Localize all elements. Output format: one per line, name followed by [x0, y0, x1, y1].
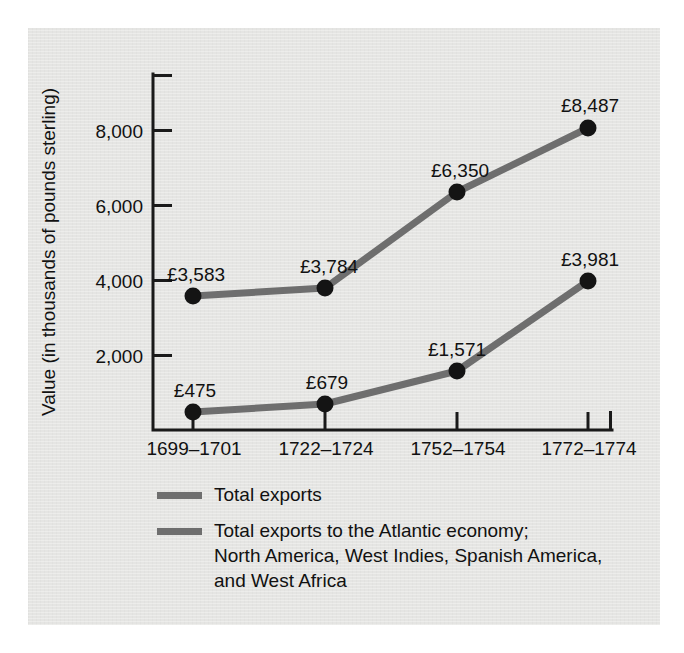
- x-tick-label-3: 1772–1774: [541, 438, 637, 459]
- y-tick-label-8000: 8,000: [95, 121, 143, 142]
- data-point-atlantic-economy-1: [317, 396, 334, 413]
- data-point-atlantic-economy-3: [580, 273, 597, 290]
- legend-label-total-exports: Total exports: [214, 484, 322, 505]
- data-point-atlantic-economy-0: [185, 404, 202, 421]
- y-tick-label-4000: 4,000: [95, 271, 143, 292]
- y-tick-label-2000: 2,000: [95, 346, 143, 367]
- data-point-total-exports-2: [449, 184, 466, 201]
- data-label-total-exports-3: £8,487: [561, 95, 619, 116]
- series-line-total-exports: [193, 128, 588, 296]
- legend-label-atlantic-economy-line2: North America, West Indies, Spanish Amer…: [214, 545, 602, 566]
- data-label-atlantic-economy-0: £475: [174, 380, 216, 401]
- data-point-total-exports-3: [580, 120, 597, 137]
- data-label-total-exports-1: £3,784: [300, 256, 359, 277]
- x-tick-label-0: 1699–1701: [146, 438, 241, 459]
- y-tick-label-6000: 6,000: [95, 196, 143, 217]
- data-point-total-exports-0: [185, 288, 202, 305]
- legend-swatch-atlantic-economy: [157, 528, 202, 535]
- x-tick-label-2: 1752–1754: [410, 438, 506, 459]
- data-label-atlantic-economy-1: £679: [306, 372, 348, 393]
- data-label-atlantic-economy-2: £1,571: [428, 339, 486, 360]
- series-line-atlantic-economy: [193, 281, 588, 412]
- data-label-total-exports-0: £3,583: [167, 264, 225, 285]
- legend-label-atlantic-economy-line3: and West Africa: [214, 570, 347, 591]
- line-chart: Value (in thousands of pounds sterling) …: [0, 0, 684, 653]
- data-point-atlantic-economy-2: [449, 363, 466, 380]
- data-label-total-exports-2: £6,350: [431, 160, 489, 181]
- legend-swatch-total-exports: [157, 492, 202, 499]
- x-tick-label-1: 1722–1724: [278, 438, 374, 459]
- legend-label-atlantic-economy-line1: Total exports to the Atlantic economy;: [214, 520, 529, 541]
- chart-figure: Value (in thousands of pounds sterling) …: [0, 0, 684, 653]
- y-axis-title: Value (in thousands of pounds sterling): [38, 88, 59, 416]
- axis-spines: [153, 74, 612, 430]
- data-label-atlantic-economy-3: £3,981: [561, 249, 619, 270]
- data-point-total-exports-1: [317, 280, 334, 297]
